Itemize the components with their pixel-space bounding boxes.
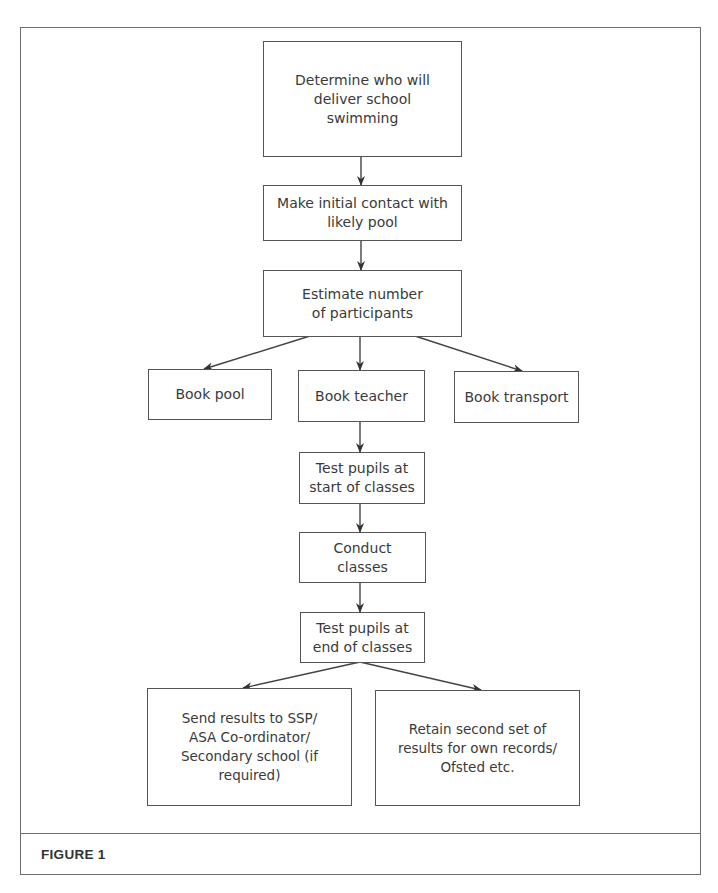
node-conduct-classes: Conduct classes [299,532,426,583]
node-label: Send results to SSP/ ASA Co-ordinator/ S… [154,709,345,785]
node-test-start: Test pupils at start of classes [299,452,425,504]
node-test-end: Test pupils at end of classes [300,612,425,663]
node-label: Determine who will deliver school swimmi… [295,71,430,128]
node-book-pool: Book pool [148,369,272,420]
node-label: Test pupils at end of classes [313,619,412,657]
node-label: Book pool [175,385,244,404]
node-label: Estimate number of participants [302,285,423,323]
node-determine-deliverer: Determine who will deliver school swimmi… [263,41,462,157]
node-initial-contact: Make initial contact with likely pool [263,185,462,241]
node-label: Book teacher [315,387,408,406]
node-estimate-participants: Estimate number of participants [263,270,462,337]
node-label: Conduct classes [306,539,419,577]
node-book-transport: Book transport [454,371,579,423]
node-retain-results: Retain second set of results for own rec… [375,690,580,806]
node-book-teacher: Book teacher [298,370,425,422]
node-label: Test pupils at start of classes [309,459,415,497]
node-label: Make initial contact with likely pool [277,194,448,232]
node-label: Book transport [465,388,569,407]
node-label: Retain second set of results for own rec… [398,720,557,777]
figure-caption: FIGURE 1 [41,847,106,862]
node-send-results: Send results to SSP/ ASA Co-ordinator/ S… [147,688,352,806]
caption-divider [20,833,701,834]
